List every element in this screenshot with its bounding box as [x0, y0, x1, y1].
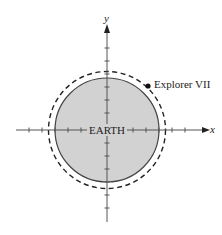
earth-label: EARTH — [89, 124, 125, 136]
y-axis-label: y — [103, 12, 109, 24]
orbit-diagram: y x EARTH Explorer VII — [0, 0, 222, 235]
y-axis-arrow-icon — [104, 24, 110, 33]
satellite-label: Explorer VII — [154, 78, 211, 90]
satellite-marker — [145, 83, 150, 88]
x-axis-arrow-icon — [202, 127, 210, 133]
x-axis-label: x — [209, 123, 215, 135]
